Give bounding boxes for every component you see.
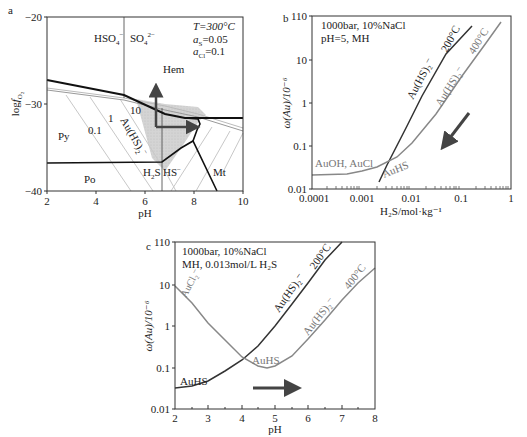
b-ylabel: ω(Au)/10⁻⁶ (280, 77, 293, 128)
a-ytick-0: −20 (25, 11, 43, 23)
c-xtick-1: 3 (205, 412, 211, 424)
label-acl: aCl=0.1 (193, 45, 225, 60)
b-xtick-0: 0.0001 (299, 192, 329, 204)
b-ytick-1: 10 (296, 54, 308, 66)
b-ytick-2: 1 (302, 97, 308, 109)
a-xtick-4: 10 (238, 195, 250, 207)
c-annotation-2: MH, 0.013mol/L H₂S (182, 258, 277, 270)
c-ytick-3: 0.1 (156, 362, 170, 374)
contour-label-0-1: 0.1 (88, 124, 102, 136)
label-hso4: HSO4− (94, 31, 124, 47)
b-ytick-0: 110 (291, 10, 308, 22)
c-annotation-1: 1000bar, 10%NaCl (182, 245, 267, 257)
b-label-auoh-aucl: AuOH, AuCl (315, 157, 373, 169)
c-xtick-2: 4 (239, 412, 245, 424)
contour-label-1: 1 (108, 112, 114, 124)
b-xtick-3: 0.1 (454, 192, 468, 204)
b-annotation-1: 1000bar, 10%NaCl (321, 19, 406, 31)
b-label-auhs2-400: Au(HS)₂⁻ (433, 64, 468, 109)
c-ytick-4: 0.01 (151, 403, 170, 415)
b-xlabel: H₂S/mol·kg⁻¹ (380, 205, 442, 217)
arrow-b (446, 113, 469, 143)
panel-a: a (8, 4, 249, 219)
b-label-auhs: AuHS (380, 158, 410, 179)
panel-c: c 110 10 1 (142, 236, 378, 435)
svg-text:logfO2: logfO2 (9, 91, 25, 116)
c-xtick-0: 2 (172, 412, 178, 424)
panel-c-letter: c (146, 240, 151, 252)
b-label-200c: 200°C (438, 23, 462, 54)
label-po: Po (84, 173, 96, 185)
a-ylabel: logfO2 (9, 91, 25, 116)
c-xtick-4: 6 (305, 412, 311, 424)
a-xtick-3: 8 (191, 195, 197, 207)
a-xtick-0: 2 (44, 195, 50, 207)
figure: a (0, 0, 527, 437)
a-xtick-1: 4 (93, 195, 99, 207)
b-xtick-2: 0.01 (401, 192, 420, 204)
panel-b-letter: b (283, 12, 289, 24)
contour-label-10: 10 (130, 104, 142, 116)
c-xtick-6: 8 (372, 412, 378, 424)
b-xtick-1: 0.001 (350, 192, 375, 204)
label-py: Py (58, 130, 70, 142)
b-annotation-2: pH=5, MH (321, 32, 369, 44)
label-mt: Mt (213, 166, 226, 178)
c-label-aucl2: AuCl₂⁻ (178, 267, 202, 299)
label-so4: SO42− (130, 31, 155, 47)
a-xlabel: pH (138, 207, 152, 219)
panel-b: b 110 10 1 0.1 0.01 (280, 10, 514, 217)
b-ytick-3: 0.1 (293, 140, 307, 152)
panel-a-letter: a (8, 4, 13, 16)
a-ytick-2: −40 (25, 185, 43, 197)
c-ytick-2: 1 (165, 320, 171, 332)
label-temp: T=300°C (193, 20, 235, 32)
c-xlabel: pH (268, 423, 282, 435)
c-ytick-0: 110 (154, 236, 171, 248)
a-xtick-2: 6 (142, 195, 148, 207)
label-hs: HS− (163, 166, 181, 178)
a-ytick-1: −30 (25, 98, 43, 110)
py-po-mt-boundary (47, 141, 217, 191)
label-hem: Hem (163, 63, 185, 75)
b-xtick-4: 1 (508, 192, 514, 204)
c-ytick-1: 10 (159, 279, 171, 291)
c-label-auhs2-400: Au(HS)₂⁻ (300, 295, 338, 338)
label-h2s: H2S (143, 166, 161, 181)
c-label-auhs-mid: AuHS (252, 354, 280, 366)
c-ylabel: ω(Au)/10⁻⁶ (142, 300, 155, 351)
c-label-auhs-low: AuHS (180, 375, 208, 387)
c-xtick-5: 7 (339, 412, 345, 424)
